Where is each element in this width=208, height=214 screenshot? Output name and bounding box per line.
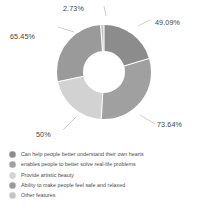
legend-item-label: Other features bbox=[21, 193, 55, 198]
legend-item-label: Provide artistic beauty bbox=[21, 173, 74, 178]
legend-swatch-icon bbox=[9, 172, 16, 179]
legend-swatch-icon bbox=[9, 192, 16, 199]
pct-label-solve-problems: 73.64% bbox=[157, 121, 182, 128]
donut-slices bbox=[58, 25, 149, 119]
pct-label-understand-hearts: 49.09% bbox=[155, 19, 180, 26]
legend-item-understand-hearts[interactable]: Can help people better understand their … bbox=[9, 150, 199, 160]
legend-item-solve-problems[interactable]: enables people to better solve real-life… bbox=[9, 160, 199, 170]
donut-chart-figure: 2.73% 49.09% 73.64% 50% 65.45% Can help … bbox=[0, 0, 208, 214]
legend-item-other-features[interactable]: Other features bbox=[9, 191, 199, 201]
pct-label-artistic-beauty: 50% bbox=[36, 131, 51, 138]
legend-swatch-icon bbox=[9, 151, 16, 158]
legend-item-label: Can help people better understand their … bbox=[21, 152, 144, 157]
chart-plot-area: 2.73% 49.09% 73.64% 50% 65.45% bbox=[0, 0, 208, 146]
legend-item-artistic-beauty[interactable]: Provide artistic beauty bbox=[9, 170, 199, 180]
pct-label-safe-and-relaxed: 65.45% bbox=[10, 33, 35, 40]
pct-label-other-features: 2.73% bbox=[63, 5, 84, 12]
legend-item-label: enables people to better solve real-life… bbox=[21, 162, 136, 167]
legend-item-safe-and-relaxed[interactable]: Ability to make people feel safe and rel… bbox=[9, 181, 199, 191]
legend-swatch-icon bbox=[9, 161, 16, 168]
legend-swatch-icon bbox=[9, 182, 16, 189]
legend-item-label: Ability to make people feel safe and rel… bbox=[21, 183, 125, 188]
chart-legend: Can help people better understand their … bbox=[9, 150, 199, 201]
